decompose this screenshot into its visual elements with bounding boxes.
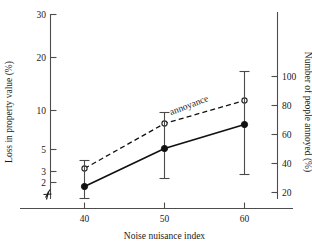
noise-nuisance-chart: 30 20 10 5 3 2 100 80 60 40 20	[0, 0, 312, 251]
y2-axis-title: Number of people annoyed (%)	[302, 52, 312, 172]
right-tick-label-80: 80	[282, 101, 292, 111]
x-tick-label-40: 40	[80, 214, 90, 224]
right-tick-label-60: 60	[282, 130, 292, 140]
left-tick-label-3: 3	[41, 167, 46, 177]
left-tick-label-2: 2	[41, 178, 46, 188]
chart-figure: 30 20 10 5 3 2 100 80 60 40 20	[0, 0, 312, 251]
left-tick-label-5: 5	[41, 145, 46, 155]
x-tick-label-60: 60	[240, 214, 250, 224]
left-tick-label-30: 30	[37, 10, 47, 20]
chart-background	[0, 0, 312, 251]
x-axis-title: Noise nuisance index	[124, 231, 206, 241]
right-tick-label-40: 40	[282, 159, 292, 169]
y-axis-title: Loss in property value (%)	[4, 61, 15, 163]
right-tick-label-20: 20	[282, 188, 292, 198]
left-tick-label-20: 20	[37, 53, 47, 63]
left-tick-label-10: 10	[37, 106, 47, 116]
property-loss-marker-50	[161, 145, 167, 151]
property-loss-marker-60	[241, 121, 247, 127]
x-tick-label-50: 50	[160, 214, 170, 224]
right-tick-label-100: 100	[282, 72, 297, 82]
property-loss-marker-40	[81, 183, 87, 189]
